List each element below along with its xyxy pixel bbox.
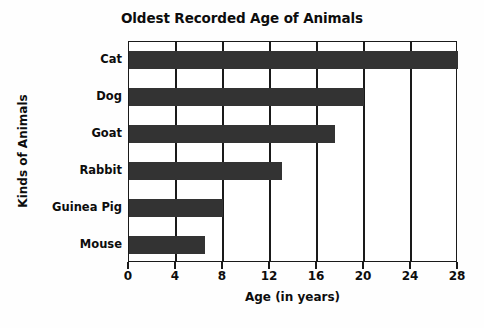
- y-axis-title: Kinds of Animals: [16, 81, 30, 221]
- bar: [129, 162, 282, 180]
- x-axis-tick-mark: [221, 262, 223, 269]
- x-axis-tick-marks: [128, 262, 457, 269]
- x-axis-tick-mark: [268, 262, 270, 269]
- bar: [129, 199, 223, 217]
- y-axis-tick-labels: CatDogGoatRabbitGuinea PigMouse: [36, 41, 122, 262]
- bar: [129, 88, 364, 106]
- y-axis-tick-label: Goat: [91, 127, 122, 139]
- x-axis-tick-label: 24: [402, 269, 419, 283]
- plot-area: [128, 41, 457, 262]
- x-axis-tick-mark: [127, 262, 129, 269]
- y-axis-tick-label: Cat: [100, 53, 122, 65]
- x-axis-tick-labels: 0481216202428: [128, 269, 457, 285]
- x-axis-tick-label: 4: [171, 269, 179, 283]
- bar: [129, 51, 458, 69]
- x-axis-tick-mark: [174, 262, 176, 269]
- y-axis-tick-label: Guinea Pig: [52, 201, 122, 213]
- x-axis-tick-mark: [315, 262, 317, 269]
- bar: [129, 236, 205, 254]
- x-axis-title: Age (in years): [128, 290, 457, 304]
- bar-chart-figure: Oldest Recorded Age of Animals Kinds of …: [0, 0, 484, 328]
- x-axis-tick-label: 16: [308, 269, 325, 283]
- x-axis-tick-label: 0: [124, 269, 132, 283]
- x-axis-tick-label: 20: [355, 269, 372, 283]
- bar: [129, 125, 335, 143]
- x-axis-tick-label: 12: [261, 269, 278, 283]
- x-axis-tick-mark: [362, 262, 364, 269]
- y-axis-tick-label: Dog: [96, 90, 122, 102]
- chart-title: Oldest Recorded Age of Animals: [0, 10, 484, 26]
- x-axis-tick-mark: [409, 262, 411, 269]
- x-axis-tick-label: 28: [449, 269, 466, 283]
- bars-layer: [129, 42, 456, 261]
- x-axis-tick-mark: [456, 262, 458, 269]
- x-axis-tick-label: 8: [218, 269, 226, 283]
- y-axis-tick-label: Mouse: [80, 238, 122, 250]
- y-axis-tick-label: Rabbit: [79, 164, 122, 176]
